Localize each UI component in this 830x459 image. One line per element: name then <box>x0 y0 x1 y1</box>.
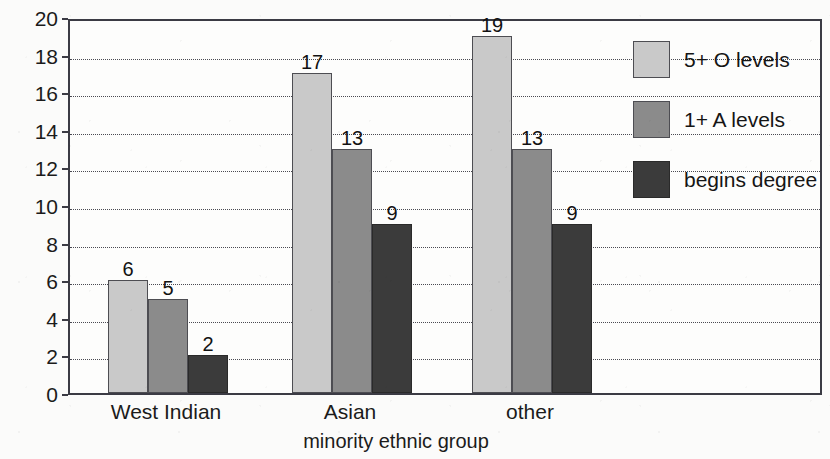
legend-swatch <box>633 161 670 198</box>
legend-item: 1+ A levels <box>633 101 817 138</box>
legend-swatch <box>633 101 670 138</box>
y-axis-tick-mark <box>62 394 68 396</box>
legend: 5+ O levels1+ A levelsbegins degree <box>633 41 817 221</box>
y-axis-tick-mark <box>62 56 68 58</box>
legend-label: begins degree <box>684 168 817 192</box>
legend-label: 5+ O levels <box>684 48 790 72</box>
y-axis-tick-mark <box>62 18 68 20</box>
y-axis-tick-label: 4 <box>6 308 58 332</box>
legend-item: 5+ O levels <box>633 41 817 78</box>
y-axis-tick-label: 0 <box>6 383 58 407</box>
chart-figure: 6521713919139 02468101214161820 percenta… <box>0 0 830 459</box>
y-axis-tick-label: 12 <box>6 157 58 181</box>
y-axis-tick-label: 18 <box>6 45 58 69</box>
y-axis-tick-mark <box>62 206 68 208</box>
y-axis-tick-mark <box>62 319 68 321</box>
y-axis-tick-mark <box>62 131 68 133</box>
y-axis-tick-label: 2 <box>6 345 58 369</box>
y-axis-tick-label: 8 <box>6 233 58 257</box>
x-axis-category-label: other <box>420 400 640 424</box>
y-axis-tick-mark <box>62 281 68 283</box>
x-axis-title-text: minority ethnic group <box>303 430 489 453</box>
y-axis-tick-label: 14 <box>6 120 58 144</box>
y-axis-tick-label: 10 <box>6 195 58 219</box>
y-axis-tick-label: 16 <box>6 82 58 106</box>
legend-item: begins degree <box>633 161 817 198</box>
legend-swatch <box>633 41 670 78</box>
x-axis-title: minority ethnic group <box>0 430 830 453</box>
y-axis-tick-label: 20 <box>6 7 58 31</box>
y-axis-tick-mark <box>62 93 68 95</box>
y-axis-tick-mark <box>62 244 68 246</box>
y-axis-tick-mark <box>62 168 68 170</box>
y-axis-tick-label: 6 <box>6 270 58 294</box>
y-axis-tick-mark <box>62 356 68 358</box>
legend-label: 1+ A levels <box>684 108 785 132</box>
